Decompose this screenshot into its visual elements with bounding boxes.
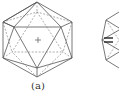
panel-a-caption: (a)	[28, 80, 48, 91]
center-mark-icon	[35, 37, 41, 43]
icosahedron-diagram-a	[0, 0, 119, 95]
